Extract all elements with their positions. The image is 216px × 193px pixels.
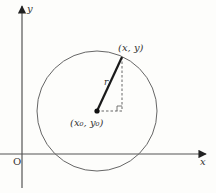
x-axis-label: x bbox=[200, 157, 206, 167]
point-on-circle-label: (x, y) bbox=[118, 43, 143, 53]
y-axis-label: y bbox=[27, 4, 33, 14]
center-point bbox=[94, 108, 99, 113]
circle-diagram: y x O (x, y) r (x₀, y₀) bbox=[0, 0, 216, 193]
radius-label: r bbox=[104, 78, 108, 87]
right-angle-marker bbox=[117, 106, 122, 111]
origin-label: O bbox=[13, 157, 21, 167]
center-point-label: (x₀, y₀) bbox=[70, 118, 103, 128]
diagram-canvas bbox=[0, 0, 216, 193]
radius-line bbox=[97, 57, 122, 111]
